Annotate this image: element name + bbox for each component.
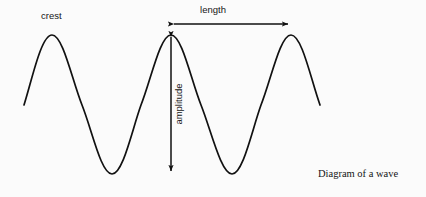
wave-curve [24, 35, 320, 174]
wave-diagram: crest length amplitude Diagram of a wave [0, 0, 426, 197]
diagram-caption: Diagram of a wave [318, 168, 399, 179]
length-label: length [200, 4, 226, 15]
crest-label: crest [41, 10, 62, 21]
amplitude-label: amplitude [173, 83, 184, 124]
